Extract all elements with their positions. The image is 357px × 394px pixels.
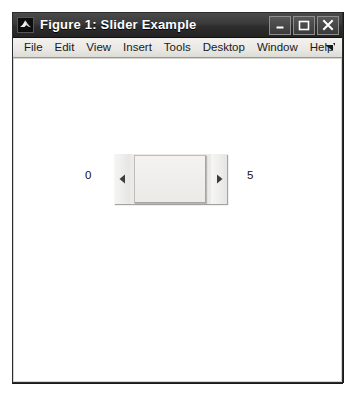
slider-trough[interactable]	[130, 154, 211, 204]
menu-bar: File Edit View Insert Tools Desktop Wind…	[13, 38, 342, 58]
minimize-button[interactable]	[269, 16, 291, 35]
slider-step-left-button[interactable]	[114, 154, 130, 204]
menu-item-file[interactable]: File	[18, 38, 49, 57]
dock-arrow-icon[interactable]	[324, 42, 336, 54]
maximize-button[interactable]	[293, 16, 315, 35]
menu-item-tools[interactable]: Tools	[158, 38, 197, 57]
menu-item-insert[interactable]: Insert	[117, 38, 158, 57]
slider-step-right-button[interactable]	[211, 154, 227, 204]
title-bar[interactable]: Figure 1: Slider Example	[13, 13, 342, 38]
maximize-icon	[298, 20, 310, 31]
triangle-left-icon	[119, 174, 126, 184]
slider-max-label: 5	[247, 168, 253, 182]
window-title: Figure 1: Slider Example	[40, 17, 267, 33]
slider-min-label: 0	[85, 168, 91, 182]
menu-item-view[interactable]: View	[80, 38, 117, 57]
slider-thumb[interactable]	[134, 155, 206, 203]
menu-item-desktop[interactable]: Desktop	[197, 38, 251, 57]
figure-window: Figure 1: Slider Example File Edit View …	[12, 12, 343, 383]
matlab-membrane-icon	[17, 17, 34, 33]
minimize-icon	[275, 20, 285, 30]
figure-canvas: 0 5	[14, 59, 341, 381]
close-icon	[322, 19, 334, 31]
slider-group: 0 5	[73, 152, 263, 206]
triangle-right-icon	[216, 174, 223, 184]
menu-item-window[interactable]: Window	[251, 38, 304, 57]
menu-item-edit[interactable]: Edit	[49, 38, 81, 57]
close-button[interactable]	[317, 16, 339, 35]
slider-control[interactable]	[114, 154, 227, 204]
